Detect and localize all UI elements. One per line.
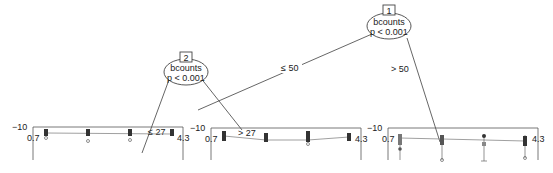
svg-text:4.3: 4.3 [355, 134, 368, 144]
terminal-panel-3: −10 0.7 4.3 [367, 123, 545, 162]
svg-text:0.7: 0.7 [382, 134, 395, 144]
svg-text:−10: −10 [190, 123, 205, 133]
svg-text:−10: −10 [367, 123, 382, 133]
svg-text:0.7: 0.7 [205, 134, 218, 144]
svg-text:4.3: 4.3 [177, 133, 190, 143]
svg-text:0.7: 0.7 [27, 133, 40, 143]
node-1: 1 bcounts p < 0.001 [367, 5, 411, 39]
edge-1-3 [407, 38, 440, 142]
node-1-pvalue: p < 0.001 [370, 27, 408, 37]
edge-label-le50: ≤ 50 [281, 63, 298, 73]
edge-label-gt50: > 50 [391, 64, 409, 74]
node-2-id: 2 [183, 53, 188, 63]
svg-text:−10: −10 [12, 122, 27, 132]
svg-text:4.3: 4.3 [532, 134, 545, 144]
edge-2-t2 [200, 77, 242, 130]
edge-2-t1 [142, 77, 170, 153]
node-2: 2 bcounts p < 0.001 [164, 52, 208, 85]
node-2-pvalue: p < 0.001 [167, 73, 205, 83]
node-1-id: 1 [386, 6, 391, 16]
edge-label-gt27: > 27 [238, 128, 256, 138]
tree-diagram: ≤ 50 > 50 ≤ 27 > 27 1 bcounts p < 0.001 … [0, 0, 553, 173]
node-2-variable: bcounts [170, 63, 202, 73]
terminal-panel-2: −10 0.7 4.3 [190, 123, 368, 160]
node-1-variable: bcounts [373, 17, 405, 27]
edge-label-le27: ≤ 27 [148, 127, 165, 137]
